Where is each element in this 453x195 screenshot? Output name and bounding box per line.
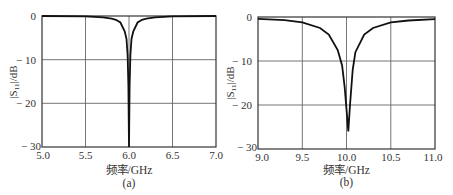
chart-b-ytick-0: 0: [247, 11, 253, 23]
chart-a-ytick-0: 0: [31, 10, 37, 22]
chart-b-xtick-2: 10.0: [337, 151, 357, 163]
chart-a: 0 − 10 − 20 − 30 5.0 5.5 6.0 6.5 7.0 |S1…: [7, 10, 223, 190]
chart-a-panel-label: (a): [123, 177, 136, 190]
chart-b-ytick-10: − 10: [232, 55, 252, 67]
chart-a-ytick-10: − 10: [16, 54, 36, 66]
figure: 0 − 10 − 20 − 30 5.0 5.5 6.0 6.5 7.0 |S1…: [0, 0, 453, 195]
chart-b-xtick-3: 10.5: [381, 151, 401, 163]
chart-a-xtick-1: 5.5: [79, 149, 93, 161]
chart-a-xtick-3: 6.5: [166, 149, 180, 161]
chart-a-ylabel: |S11|/dB: [7, 65, 21, 98]
chart-b-xtick-4: 11.0: [424, 151, 443, 163]
chart-b-xlabel: 频率/GHz: [323, 163, 370, 176]
chart-b-panel-label: (b): [340, 176, 354, 189]
chart-b-ytick-20: − 20: [232, 99, 252, 111]
chart-b-xtick-1: 9.5: [295, 151, 309, 163]
chart-a-xtick-0: 5.0: [36, 149, 50, 161]
chart-a-xlabel: 频率/GHz: [106, 163, 153, 176]
chart-b: 0 − 10 − 20 − 30 9.0 9.5 10.0 10.5 11.0 …: [224, 11, 443, 189]
chart-b-xtick-0: 9.0: [255, 151, 269, 163]
chart-a-xtick-2: 6.0: [122, 149, 136, 161]
chart-b-grid: [258, 17, 435, 149]
chart-a-xtick-4: 7.0: [209, 149, 223, 161]
chart-b-ylabel: |S11|/dB: [224, 66, 238, 99]
chart-a-ytick-20: − 20: [16, 97, 36, 109]
